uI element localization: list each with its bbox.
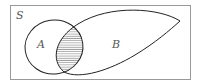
set-a-label: A <box>37 39 45 50</box>
set-b-label: B <box>112 39 120 50</box>
universe-label: S <box>16 10 24 21</box>
venn-diagram <box>0 0 204 84</box>
